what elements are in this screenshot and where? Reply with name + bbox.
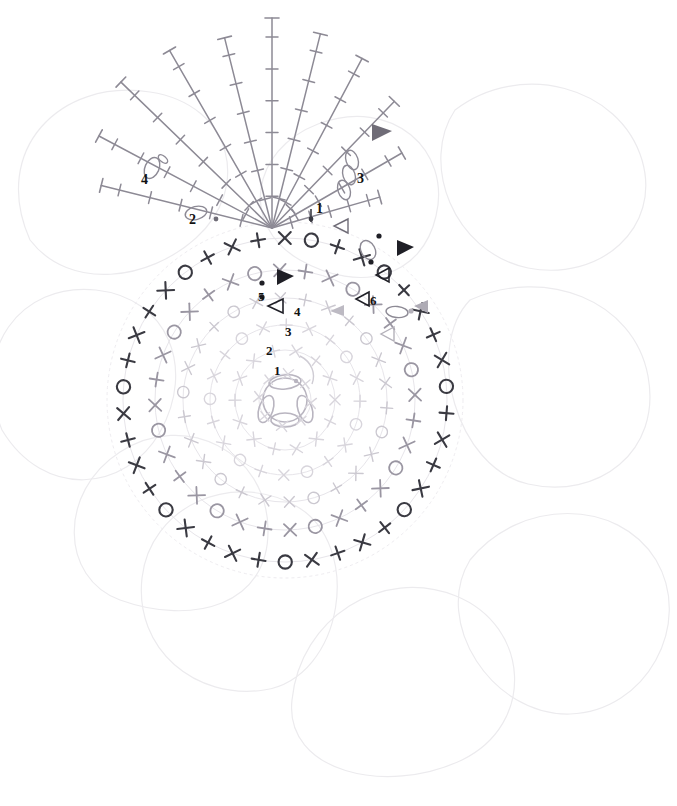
fan-spoke-1 xyxy=(96,130,272,228)
stitch-r6-11 xyxy=(375,518,395,538)
diagram-canvas: 1234562341 xyxy=(0,0,677,806)
stitch-r2-9 xyxy=(233,415,247,429)
stitch-r6-8 xyxy=(424,456,442,474)
stitch-r5-3 xyxy=(395,338,411,354)
stitch-r6-28 xyxy=(140,302,159,321)
stitch-r5-23 xyxy=(155,347,170,362)
marker-dot-6a xyxy=(376,233,381,238)
stitch-r2-0 xyxy=(290,345,302,357)
stitch-r3-0 xyxy=(303,323,316,336)
stitch-r6-23 xyxy=(119,431,136,448)
stitch-r4-17 xyxy=(178,410,192,424)
stitch-r3-1 xyxy=(322,332,339,349)
round-start-marker-6 xyxy=(397,240,414,256)
stitch-r5-2 xyxy=(380,314,400,334)
marker-dot-2 xyxy=(214,217,219,222)
stitch-r6-32 xyxy=(225,239,240,254)
stitch-r4-4 xyxy=(380,377,392,389)
stitch-r6-27 xyxy=(129,327,145,343)
round-start-marker-5 xyxy=(277,269,294,285)
stitch-r5-18 xyxy=(170,467,190,487)
stitch-r4-15 xyxy=(196,454,210,468)
stitch-r3-3 xyxy=(350,372,363,385)
stitch-r6-3 xyxy=(424,325,442,343)
round-6-label: 6 xyxy=(370,293,377,308)
marker-dot-5a xyxy=(259,280,264,285)
magic-ring-center xyxy=(255,373,316,427)
stitch-round-6 xyxy=(116,232,454,569)
marker-arrow-petal-3 xyxy=(372,124,392,141)
stitch-r2-10 xyxy=(229,394,241,406)
stitch-r5-26 xyxy=(199,285,219,305)
stitch-r6-31 xyxy=(198,248,217,267)
stitch-r5-11 xyxy=(332,510,348,526)
stitch-r3-7 xyxy=(320,453,337,470)
round-2-label: 2 xyxy=(266,343,273,358)
petal-label-4: 4 xyxy=(141,172,148,187)
stitch-r3-16 xyxy=(217,347,234,364)
round-end-marker-4 xyxy=(381,327,394,341)
petal-label-1: 1 xyxy=(316,201,323,216)
stitch-r6-9 xyxy=(412,480,428,496)
marker-dot-4 xyxy=(408,308,413,313)
stitch-r6-33 xyxy=(250,232,266,248)
stitch-r6-36 xyxy=(329,238,347,256)
stitch-r5-7 xyxy=(399,437,414,452)
crochet-chart-svg: 1234562341 xyxy=(0,0,677,806)
round-end-marker-5 xyxy=(268,299,283,313)
marker-dot-6b xyxy=(368,259,373,264)
stitch-r4-19 xyxy=(182,362,195,375)
stitch-r4-5 xyxy=(380,401,393,414)
stitch-r5-27 xyxy=(223,274,239,290)
stitch-r6-12 xyxy=(354,534,370,550)
stitch-r3-10 xyxy=(253,463,268,478)
round-3-label: 3 xyxy=(285,324,292,339)
stitch-r6-26 xyxy=(119,352,136,369)
fan-spoke-3 xyxy=(163,47,272,228)
stitch-r2-7 xyxy=(267,442,281,456)
fan-spoke-5 xyxy=(265,18,279,228)
petal-fan-group xyxy=(96,18,406,228)
stitch-r4-20 xyxy=(192,339,206,353)
round-4-label: 4 xyxy=(294,304,301,319)
stitch-r4-3 xyxy=(372,353,385,366)
stitch-r6-7 xyxy=(435,432,449,446)
stitch-round-3 xyxy=(204,319,366,480)
stitch-r2-2 xyxy=(323,371,337,385)
stitch-r6-16 xyxy=(251,552,267,568)
stitch-r3-12 xyxy=(216,436,230,450)
stitch-r4-0 xyxy=(322,301,336,315)
stitch-r5-6 xyxy=(405,412,421,428)
stitch-r2-6 xyxy=(290,443,302,455)
stitch-r6-19 xyxy=(177,520,194,537)
stitch-r6-4 xyxy=(435,353,449,367)
stitch-r6-18 xyxy=(199,533,218,552)
stitch-r6-13 xyxy=(329,544,347,562)
stitch-round-2 xyxy=(229,344,340,456)
fan-spoke-4 xyxy=(218,36,272,228)
stitch-r5-15 xyxy=(232,514,247,529)
stitch-r6-17 xyxy=(225,546,240,561)
stitch-r6-14 xyxy=(305,553,319,567)
stitch-r3-15 xyxy=(208,369,221,382)
stitch-r6-21 xyxy=(140,479,159,498)
stitch-r5-10 xyxy=(352,495,372,515)
stitch-r5-19 xyxy=(159,447,175,463)
stitch-r2-4 xyxy=(322,414,338,430)
stitch-r3-13 xyxy=(206,415,221,430)
stitch-r6-6 xyxy=(439,406,454,421)
fan-spoke-8 xyxy=(272,97,399,228)
stitch-r5-14 xyxy=(257,520,273,536)
stitch-rounds-layer xyxy=(116,232,454,569)
fan-spoke-2 xyxy=(116,77,272,228)
stitch-r5-22 xyxy=(149,372,165,388)
stitch-r6-37 xyxy=(354,249,370,265)
stitch-r3-18 xyxy=(257,322,270,335)
round-1-label: 1 xyxy=(274,363,281,378)
stitch-r3-6 xyxy=(338,438,352,452)
stitch-r2-11 xyxy=(233,372,247,386)
labels-layer: 1234562341 xyxy=(141,171,377,378)
round-5-label: 5 xyxy=(258,289,265,304)
stitch-round-5 xyxy=(149,264,422,537)
stitch-r4-9 xyxy=(328,480,344,496)
